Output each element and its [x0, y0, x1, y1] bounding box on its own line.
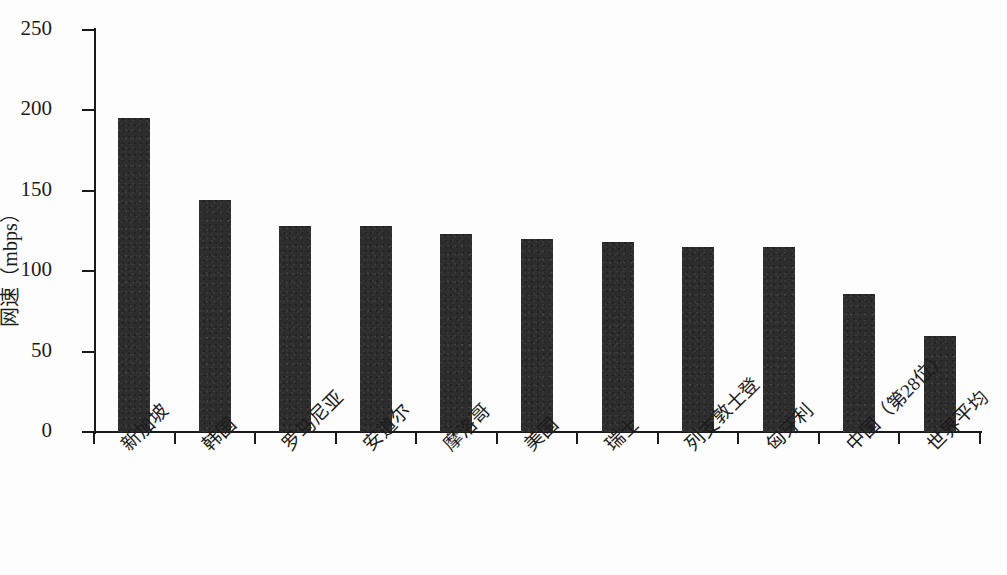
- bar: [440, 234, 472, 432]
- bar: [118, 118, 150, 432]
- x-axis-tick-mark: [496, 433, 498, 444]
- x-axis-tick-mark: [737, 433, 739, 444]
- x-axis-tick-mark: [174, 433, 176, 444]
- x-axis-tick-mark: [254, 433, 256, 444]
- bar: [279, 226, 311, 432]
- y-axis-tick-label: 250: [0, 18, 52, 39]
- y-axis-tick-label: 100: [0, 259, 52, 280]
- bar: [682, 247, 714, 432]
- y-axis-tick-label-wrap: 200: [0, 98, 94, 119]
- x-axis-tick-mark: [415, 433, 417, 444]
- y-axis-tick-label-wrap: 100: [0, 259, 94, 280]
- x-axis-tick-mark: [818, 433, 820, 444]
- y-axis-tick-label: 200: [0, 98, 52, 119]
- plot-area: [94, 30, 980, 432]
- x-axis-tick-mark: [657, 433, 659, 444]
- y-axis-tick-label: 150: [0, 179, 52, 200]
- y-axis-tick-label-wrap: 150: [0, 179, 94, 200]
- y-axis-tick-label: 50: [0, 340, 52, 361]
- x-axis-tick-mark: [93, 433, 95, 444]
- x-axis-tick-mark: [898, 433, 900, 444]
- bar: [199, 200, 231, 432]
- y-axis-tick-label-wrap: 50: [0, 340, 94, 361]
- x-axis-tick-mark: [576, 433, 578, 444]
- x-axis-tick-mark: [335, 433, 337, 444]
- bar: [521, 239, 553, 432]
- bar: [602, 242, 634, 432]
- chart-canvas: 网速（mbps） 250200150100500 新加坡韩国罗马尼亚安道尔摩洛哥…: [0, 0, 1007, 575]
- x-axis-tick-mark: [979, 433, 981, 444]
- y-axis-tick-label-wrap: 250: [0, 18, 94, 39]
- bar: [763, 247, 795, 432]
- y-axis-tick-label: 0: [0, 420, 52, 441]
- bar: [360, 226, 392, 432]
- y-axis-tick-label-wrap: 0: [0, 420, 94, 441]
